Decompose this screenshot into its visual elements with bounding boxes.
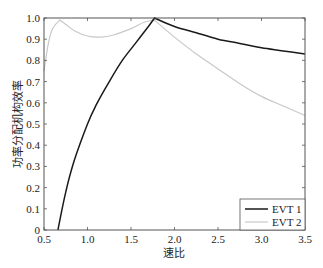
y-tick-label: 0.7 xyxy=(26,76,40,88)
legend-label-evt2: EVT 2 xyxy=(272,216,301,228)
y-tick-label: 0.5 xyxy=(26,118,40,130)
y-tick-labels: 00.10.20.30.40.50.60.70.80.91.0 xyxy=(26,12,40,236)
x-tick-label: 3.5 xyxy=(298,233,312,245)
y-tick-label: 0.8 xyxy=(26,54,40,66)
chart: 0.51.01.52.02.53.03.5 00.10.20.30.40.50.… xyxy=(0,0,323,268)
x-tick-label: 1.0 xyxy=(81,233,95,245)
series-layer xyxy=(44,18,305,230)
series-line-evt2 xyxy=(44,20,305,115)
y-tick-label: 0.9 xyxy=(26,33,40,45)
y-tick-label: 0.6 xyxy=(26,97,40,109)
y-tick-label: 0.3 xyxy=(26,160,40,172)
x-tick-label: 1.5 xyxy=(124,233,138,245)
x-tick-label: 2.5 xyxy=(211,233,225,245)
x-tick-label: 2.0 xyxy=(168,233,182,245)
x-axis-title: 速比 xyxy=(163,247,185,260)
y-tick-label: 0.4 xyxy=(26,139,40,151)
y-tick-label: 0.2 xyxy=(26,182,40,194)
y-tick-label: 0.1 xyxy=(26,203,40,215)
series-line-evt1 xyxy=(58,18,305,230)
legend-label-evt1: EVT 1 xyxy=(272,203,301,215)
axis-ticks xyxy=(44,18,305,230)
y-axis-title: 功率分配机构效率 xyxy=(11,80,25,168)
plot-frame xyxy=(44,18,305,230)
y-tick-label: 1.0 xyxy=(26,12,40,24)
y-tick-label: 0 xyxy=(35,224,41,236)
legend: EVT 1 EVT 2 xyxy=(240,199,305,230)
x-tick-labels: 0.51.01.52.02.53.03.5 xyxy=(37,233,312,245)
x-tick-label: 3.0 xyxy=(255,233,269,245)
